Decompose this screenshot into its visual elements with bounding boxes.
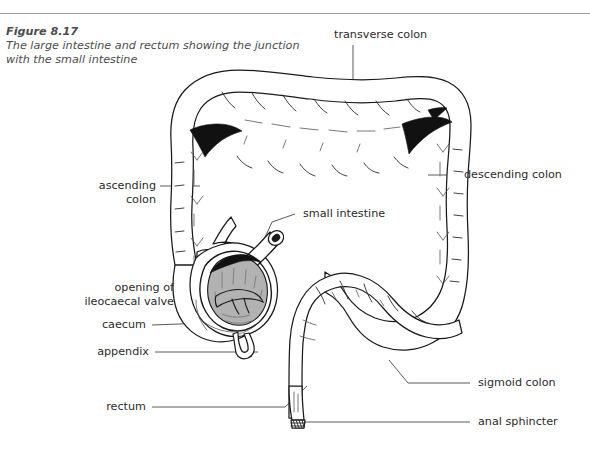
leader-sigmoid-colon [389,360,470,383]
figure-page: Figure 8.17 The large intestine and rect… [0,0,590,453]
haustra-transverse-bottom [237,156,408,176]
label-caecum: caecum [44,318,146,332]
label-descending-colon: descending colon [464,168,562,182]
haustra-transverse-dashes [244,120,400,152]
leader-rectum [152,386,307,407]
label-rectum: rectum [44,400,146,414]
flexure-shadows [190,108,452,157]
label-anal-sphincter: anal sphincter [478,415,558,429]
hepatic-flexure-shadow [190,124,242,157]
label-ascending-colon: ascending colon [44,179,156,206]
sigmoid-colon-outline [289,273,462,418]
anal-sphincter-group [291,420,305,428]
label-opening-of-ileocaecal-valve: opening of ileocaecal valve [36,281,174,308]
label-small-intestine: small intestine [303,207,385,221]
label-sigmoid-colon: sigmoid colon [478,376,556,390]
label-transverse-colon: transverse colon [334,28,427,42]
label-appendix: appendix [44,345,149,359]
splenic-flexure-shadow [402,117,452,154]
rectum-outline [289,386,304,420]
